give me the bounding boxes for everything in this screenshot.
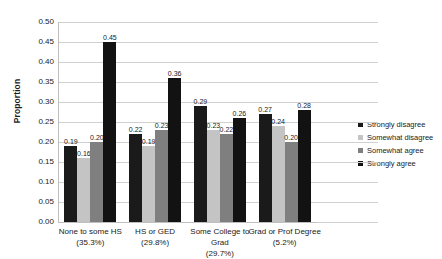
gridline-extension [317,42,378,43]
y-axis-tick: 0.15 [26,158,54,166]
x-axis-category-name: Grad or Prof Degree [248,227,320,236]
bar-group: 0.270.240.200.28 [259,22,311,222]
bar-value-label: 0.36 [160,70,190,77]
bar[interactable] [90,142,103,222]
y-axis-tick: 0.35 [26,78,54,86]
gridline-extension [317,122,378,123]
bar[interactable] [77,158,90,222]
y-axis-tick: 0.45 [26,38,54,46]
legend-swatch-icon [358,135,363,140]
bar[interactable] [220,134,233,222]
legend-label: Strongly agree [367,159,416,168]
bar-value-label: 0.28 [289,102,319,109]
y-axis-title: Proportion [12,51,22,151]
y-axis-tick: 0.40 [26,58,54,66]
bar[interactable] [155,130,168,222]
bar[interactable] [142,146,155,222]
y-axis-tick: 0.00 [26,218,54,226]
x-axis-category-percent: (5.2%) [246,237,323,248]
bar[interactable] [298,110,311,222]
bar-value-label: 0.29 [185,98,215,105]
legend-item[interactable]: Strongly agree [358,157,442,170]
x-axis-category-name: None to some HS [59,227,122,236]
gridline-extension [317,202,378,203]
y-axis-tick: 0.25 [26,118,54,126]
gridline-extension [317,102,378,103]
y-axis-tick: 0.30 [26,98,54,106]
legend-label: Somewhat agree [367,146,424,155]
bar[interactable] [233,118,246,222]
y-axis-tick: 0.20 [26,138,54,146]
gridline-extension [317,82,378,83]
bar[interactable] [129,134,142,222]
bar-group: 0.290.230.220.26 [194,22,246,222]
bar[interactable] [207,130,220,222]
y-axis-tick: 0.50 [26,18,54,26]
x-axis-category-name: HS or GED [135,227,175,236]
gridline-extension [317,162,378,163]
bar-series-container: 0.190.160.200.450.220.190.230.360.290.23… [58,22,317,222]
x-axis-category-name: Some College to Grad [190,227,249,247]
x-axis-tick-labels: None to some HS(35.3%)HS or GED(29.8%)So… [58,226,317,254]
gridline-extension [317,142,378,143]
y-axis-tick-labels: 0.500.450.400.350.300.250.200.150.100.05… [26,22,54,222]
y-axis-tick: 0.10 [26,178,54,186]
bar[interactable] [64,146,77,222]
gridline-extension [317,222,378,223]
bar-group: 0.220.190.230.36 [129,22,181,222]
bar-group: 0.190.160.200.45 [64,22,116,222]
gridline-extension [317,62,378,63]
bar[interactable] [285,142,298,222]
legend-label: Somewhat disagree [367,133,433,142]
gridline-extension [317,182,378,183]
x-axis-category-percent: (29.7%) [182,248,259,259]
legend-item[interactable]: Somewhat agree [358,144,442,157]
bar-value-label: 0.27 [250,106,280,113]
x-axis-tick: Grad or Prof Degree(5.2%) [246,226,323,248]
legend-swatch-icon [358,148,363,153]
bar[interactable] [103,42,116,222]
bar-value-label: 0.24 [263,118,293,125]
y-axis-tick: 0.05 [26,198,54,206]
bar-value-label: 0.45 [95,34,125,41]
bar[interactable] [259,114,272,222]
bar[interactable] [168,78,181,222]
legend-item[interactable]: Strongly disagree [358,118,442,131]
